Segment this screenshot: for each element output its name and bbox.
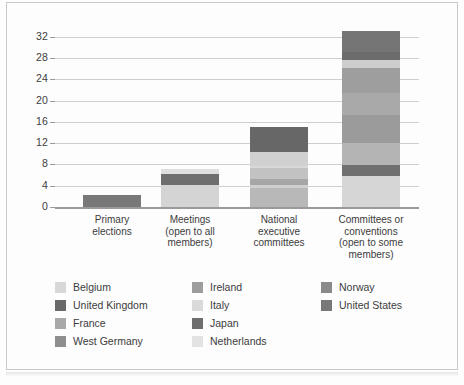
legend-item[interactable]: West Germany	[55, 332, 148, 350]
legend-swatch-icon	[192, 336, 203, 347]
legend-swatch-icon	[55, 300, 66, 311]
y-axis-tick-label: 8	[20, 157, 48, 169]
y-axis-tickmark	[50, 143, 55, 144]
legend-swatch-icon	[192, 300, 203, 311]
plot-area	[55, 22, 419, 210]
legend-column: BelgiumUnited KingdomFranceWest Germany	[55, 278, 148, 350]
y-axis-tickmark	[50, 58, 55, 59]
y-axis-tickmark	[50, 122, 55, 123]
figure-bottom-shadow	[6, 372, 458, 376]
y-axis-tickmark	[50, 37, 55, 38]
legend-column: IrelandItalyJapanNetherlands	[192, 278, 267, 350]
legend-column: NorwayUnited States	[321, 278, 402, 314]
legend-label: Ireland	[210, 281, 242, 293]
bar-segment	[342, 176, 400, 207]
legend-swatch-icon	[192, 282, 203, 293]
legend-label: Japan	[210, 317, 239, 329]
legend-label: United Kingdom	[73, 299, 148, 311]
y-axis-tickmark	[50, 79, 55, 80]
legend-swatch-icon	[321, 300, 332, 311]
legend-item[interactable]: Ireland	[192, 278, 267, 296]
legend-item[interactable]: Belgium	[55, 278, 148, 296]
x-axis-category-label: National executive committees	[231, 214, 327, 249]
y-axis-tickmark	[50, 101, 55, 102]
stacked-bar	[83, 195, 141, 207]
legend-label: Norway	[339, 281, 375, 293]
bar-segment	[161, 185, 219, 207]
legend-swatch-icon	[55, 282, 66, 293]
y-axis-tick-label: 4	[20, 179, 48, 191]
bar-segment	[161, 174, 219, 185]
y-axis-tick-label: 0	[20, 200, 48, 212]
legend-item[interactable]: Italy	[192, 296, 267, 314]
bar-segment	[342, 68, 400, 92]
bar-segment	[83, 195, 141, 207]
chart-legend: BelgiumUnited KingdomFranceWest GermanyI…	[55, 278, 450, 353]
legend-swatch-icon	[55, 318, 66, 329]
y-axis-tick-label: 16	[20, 115, 48, 127]
y-axis-tick-label: 12	[20, 136, 48, 148]
bar-segment	[250, 168, 308, 179]
bar-segment	[250, 188, 308, 207]
bar-segment	[342, 52, 400, 61]
legend-label: France	[73, 317, 106, 329]
bar-segment	[342, 31, 400, 51]
chart-figure: 048121620242832 Number of parties Primar…	[0, 0, 464, 385]
y-axis-tick-label: 28	[20, 51, 48, 63]
legend-label: Netherlands	[210, 335, 267, 347]
legend-item[interactable]: France	[55, 314, 148, 332]
legend-item[interactable]: Netherlands	[192, 332, 267, 350]
x-axis-category-label: Meetings (open to all members)	[142, 214, 238, 249]
y-axis-tickmark	[50, 186, 55, 187]
legend-swatch-icon	[55, 336, 66, 347]
legend-label: West Germany	[73, 335, 143, 347]
legend-item[interactable]: Norway	[321, 278, 402, 296]
bar-segment	[342, 93, 400, 115]
legend-label: Belgium	[73, 281, 111, 293]
legend-label: Italy	[210, 299, 229, 311]
legend-swatch-icon	[192, 318, 203, 329]
legend-item[interactable]: United States	[321, 296, 402, 314]
y-axis-tick-label: 20	[20, 94, 48, 106]
x-axis-category-label: Committees or conventions (open to some …	[323, 214, 419, 260]
stacked-bar	[250, 127, 308, 207]
bar-segment	[342, 115, 400, 143]
bar-segment	[250, 127, 308, 153]
legend-item[interactable]: United Kingdom	[55, 296, 148, 314]
y-axis-tickmark	[50, 164, 55, 165]
bar-segment	[342, 165, 400, 176]
legend-item[interactable]: Japan	[192, 314, 267, 332]
x-axis-line	[55, 207, 419, 209]
bar-segment	[342, 143, 400, 165]
bar-segment	[250, 152, 308, 165]
stacked-bar	[342, 31, 400, 207]
bar-segment	[342, 60, 400, 68]
stacked-bar	[161, 169, 219, 207]
legend-swatch-icon	[321, 282, 332, 293]
legend-label: United States	[339, 299, 402, 311]
y-axis-tick-label: 32	[20, 30, 48, 42]
y-axis-tick-label: 24	[20, 72, 48, 84]
